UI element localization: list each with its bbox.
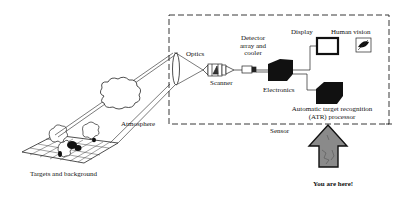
label-atr-line2: (ATR) processor xyxy=(282,114,382,122)
scanner xyxy=(203,64,234,76)
electronics-block xyxy=(268,59,293,81)
label-display: Display xyxy=(291,29,313,37)
label-you-are-here: You are here! xyxy=(313,181,353,189)
label-detector-line3: cooler xyxy=(238,50,268,58)
label-atr: Automatic target recognition (ATR) proce… xyxy=(282,106,382,121)
label-sensor: Sensor xyxy=(270,128,289,136)
targets-ground-grid xyxy=(22,122,118,163)
display-monitor xyxy=(317,38,338,54)
label-electronics: Electronics xyxy=(263,87,295,95)
detector-array xyxy=(234,66,268,73)
label-detector: Detector array and cooler xyxy=(238,35,268,58)
label-scanner: Scanner xyxy=(210,80,233,88)
eye-icon xyxy=(356,38,371,52)
atr-processor-block xyxy=(316,82,343,104)
label-targets: Targets and background xyxy=(30,171,97,179)
signal-connectors xyxy=(293,46,317,90)
label-optics: Optics xyxy=(186,51,204,59)
atmosphere-cloud xyxy=(100,77,140,109)
label-atmosphere: Atmosphere xyxy=(121,121,155,129)
label-human-vision: Human vision xyxy=(331,29,370,37)
you-are-here-arrow xyxy=(309,125,347,167)
optics-lens xyxy=(173,53,180,85)
